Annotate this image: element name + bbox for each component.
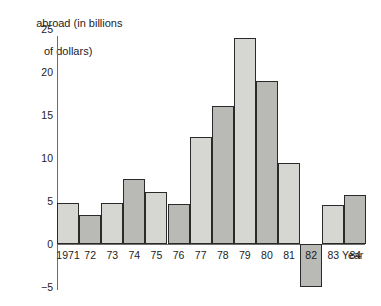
y-axis-tick-label: 0: [25, 239, 53, 249]
bar: [168, 204, 190, 244]
bar: [123, 179, 145, 244]
bar: [212, 106, 234, 244]
bar: [79, 215, 101, 244]
y-axis-tick-label: 15: [25, 110, 53, 120]
bar: [57, 203, 79, 244]
bar: [322, 205, 344, 244]
bar: [145, 192, 167, 244]
bar: [256, 81, 278, 244]
bar: [278, 163, 300, 244]
y-axis-tick-label: 20: [25, 67, 53, 77]
bar: [101, 203, 123, 244]
y-axis-tick-label: 10: [25, 153, 53, 163]
y-axis-tick-label: 5: [25, 196, 53, 206]
bar: [344, 195, 366, 244]
y-axis-tick-label: 25: [25, 24, 53, 34]
y-axis-tick-label: −5: [25, 282, 53, 292]
x-axis-label: Year: [342, 249, 363, 261]
bar-chart: abroad (in billions of dollars) 25201510…: [0, 0, 381, 306]
bar: [190, 137, 212, 245]
bar: [234, 38, 256, 244]
plot-area: 2520151050−5 197172737475767778798081828…: [0, 0, 381, 306]
